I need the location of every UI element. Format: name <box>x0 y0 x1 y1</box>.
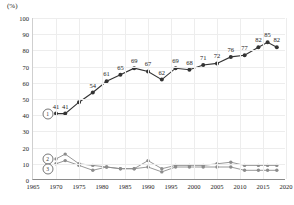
gridline-vertical <box>56 18 57 179</box>
y-axis-tick-label: 40 <box>23 112 30 119</box>
data-point-label: 62 <box>159 69 166 76</box>
data-point <box>160 170 163 173</box>
gridline-horizontal <box>33 131 285 132</box>
gridline-horizontal <box>33 148 285 149</box>
data-point <box>257 169 260 172</box>
y-axis-tick-label: 80 <box>23 47 30 54</box>
x-axis-tick-label: 1965 <box>27 183 40 190</box>
data-point <box>174 165 177 168</box>
gridline-horizontal <box>33 18 285 19</box>
gridline-vertical <box>171 18 172 179</box>
gridline-vertical <box>79 18 80 179</box>
y-axis-tick-label: 60 <box>23 79 30 86</box>
y-axis-tick-label: 50 <box>23 96 30 103</box>
data-point-label: 77 <box>241 44 248 51</box>
data-point <box>266 40 270 44</box>
data-point-label: 54 <box>90 82 97 89</box>
series-legend-tag-1: 1 <box>42 108 53 119</box>
x-axis-tick-label: 2005 <box>211 183 224 190</box>
gridline-vertical <box>286 18 287 179</box>
x-axis-tick-label: 1995 <box>165 183 178 190</box>
data-point <box>160 167 163 170</box>
data-point-label: 41 <box>53 103 60 110</box>
gridline-vertical <box>125 18 126 179</box>
data-point-label: 82 <box>274 36 281 43</box>
data-point-label: 76 <box>228 46 235 53</box>
y-axis-tick-label: 70 <box>23 63 30 70</box>
x-axis-tick-label: 1970 <box>50 183 63 190</box>
gridline-vertical <box>102 18 103 179</box>
y-axis-tick-label: 20 <box>23 144 30 151</box>
data-point <box>160 78 164 82</box>
gridline-horizontal <box>33 115 285 116</box>
data-point <box>275 45 279 49</box>
y-axis-tick-label: 90 <box>23 31 30 38</box>
data-point <box>64 152 67 155</box>
data-point-label: 69 <box>172 57 179 64</box>
y-axis-tick-label: 10 <box>23 160 30 167</box>
data-point <box>118 73 122 77</box>
data-point-label: 61 <box>103 70 110 77</box>
data-point-label: 65 <box>117 64 124 71</box>
data-point-label: 82 <box>255 36 262 43</box>
plot-area: 0102030405060708090100196519701975198019… <box>32 18 285 180</box>
gridline-horizontal <box>33 99 285 100</box>
data-point <box>229 165 232 168</box>
data-point <box>266 169 269 172</box>
x-axis-tick-label: 2015 <box>257 183 270 190</box>
data-point-label: 72 <box>214 52 221 59</box>
y-axis-tick-label: 30 <box>23 128 30 135</box>
data-point <box>187 68 191 72</box>
data-point <box>275 169 278 172</box>
data-point <box>188 165 191 168</box>
data-point-label: 68 <box>186 59 193 66</box>
x-axis-tick-label: 2020 <box>280 183 293 190</box>
gridline-vertical <box>194 18 195 179</box>
data-point-label: 71 <box>200 54 207 61</box>
data-point <box>256 45 260 49</box>
data-point <box>119 167 122 170</box>
x-axis-tick-label: 1985 <box>119 183 132 190</box>
x-axis-tick-label: 1980 <box>96 183 109 190</box>
data-point-label: 67 <box>145 60 152 67</box>
x-axis-tick-label: 2010 <box>234 183 247 190</box>
chart-root: (%) 010203040506070809010019651970197519… <box>0 0 294 205</box>
x-axis-tick-label: 1990 <box>142 183 155 190</box>
gridline-vertical <box>263 18 264 179</box>
gridline-vertical <box>148 18 149 179</box>
data-point <box>229 55 233 59</box>
y-axis-unit-label: (%) <box>7 2 18 10</box>
data-point-label: 69 <box>131 57 138 64</box>
data-point <box>133 167 136 170</box>
data-point <box>202 165 205 168</box>
data-point <box>91 169 94 172</box>
data-point-label: 41 <box>62 103 69 110</box>
data-point-label: 85 <box>264 31 271 38</box>
series-line-1 <box>56 42 277 113</box>
data-point <box>91 91 95 95</box>
data-point <box>243 53 247 57</box>
gridline-vertical <box>217 18 218 179</box>
data-point <box>243 169 246 172</box>
gridline-vertical <box>240 18 241 179</box>
gridline-horizontal <box>33 34 285 35</box>
gridline-horizontal <box>33 67 285 68</box>
gridline-horizontal <box>33 83 285 84</box>
y-axis-tick-label: 100 <box>19 15 29 22</box>
x-axis-tick-label: 1975 <box>73 183 86 190</box>
x-axis-tick-label: 2000 <box>188 183 201 190</box>
series-legend-tag-3: 3 <box>42 163 53 174</box>
gridline-horizontal <box>33 164 285 165</box>
data-point <box>64 159 67 162</box>
data-point <box>105 165 108 168</box>
